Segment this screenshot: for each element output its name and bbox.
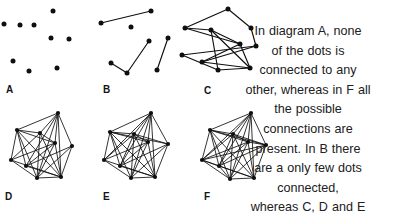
graph-node [129,176,133,180]
graph-svg-a [0,0,80,80]
diagram-panel-a [0,0,80,80]
graph-node [183,26,188,31]
graph-node [147,39,152,44]
graph-node [99,21,104,26]
graph-node [55,66,60,71]
graph-edge [127,41,149,73]
caption-line: present. In B there [222,140,394,160]
graph-node [108,130,112,134]
graph-node [129,25,134,30]
graph-edge [26,146,72,166]
graph-node [24,164,28,168]
diagram-panel-b [95,0,180,80]
graph-edge [110,113,151,132]
graph-node [49,36,54,41]
graph-node [56,111,60,115]
graph-node [149,9,154,14]
graph-edge [101,11,151,23]
caption-line: connected to any [222,61,394,81]
graph-node [32,23,37,28]
graph-node [9,158,13,162]
graph-node [180,53,185,58]
graph-node [166,142,170,146]
graph-edge [157,38,168,70]
graph-node [216,68,221,73]
caption-line: have increasing [222,218,394,219]
graph-node [102,158,106,162]
graph-svg-e [98,108,174,186]
graph-node [208,128,212,132]
graph-node [2,22,7,27]
graph-node [132,132,136,136]
graph-edge [40,113,58,133]
graph-node [38,131,42,135]
graph-node [200,60,205,65]
graph-svg-b [95,0,180,80]
graph-node [59,175,63,179]
caption-line: the possible [222,100,394,120]
caption-line: connections are [222,120,394,140]
panel-label-e: E [103,192,110,202]
graph-node [27,69,32,74]
caption-line: are a only few dots [222,159,394,179]
graph-node [109,61,114,66]
graph-node [51,9,56,14]
graph-node [146,140,150,144]
graph-edge [131,177,155,178]
graph-node [209,28,214,33]
panel-label-a: A [6,85,13,95]
panel-label-f: F [204,192,210,202]
graph-node [226,7,231,12]
graph-edge [58,113,72,146]
graph-node [70,144,74,148]
graph-node [67,37,72,42]
graph-node [153,175,157,179]
graph-edge [37,177,61,178]
graph-node [53,141,57,145]
caption-line: of the dots is [222,42,394,62]
graph-node [18,23,23,28]
graph-node [166,36,171,41]
caption-line: whereas C, D and E [222,198,394,218]
panel-label-b: B [103,85,110,95]
caption-line: connected, [222,179,394,199]
graph-node [200,158,204,162]
caption-line: In diagram A, none [222,22,394,42]
graph-node [15,128,19,132]
graph-node [149,111,153,115]
graph-edge [202,130,210,160]
graph-node [125,71,130,76]
panel-label-c: C [204,86,211,96]
diagram-panel-e [98,108,174,186]
panel-label-d: D [5,192,12,202]
graph-edge [26,113,58,166]
graph-edge [111,63,127,73]
graph-svg-d [6,108,82,186]
diagram-panel-d [6,108,82,186]
graph-node [35,176,39,180]
graph-node [155,68,160,73]
graph-node [217,164,221,168]
graph-node [11,59,16,64]
graph-node [118,164,122,168]
caption-line: other, whereas in F all [222,81,394,101]
caption-text: In diagram A, noneof the dots isconnecte… [222,22,394,219]
figure-root: A B C D E F In diagram A, noneof the dot… [0,0,396,219]
graph-edge [104,142,148,160]
graph-edge [17,113,58,130]
